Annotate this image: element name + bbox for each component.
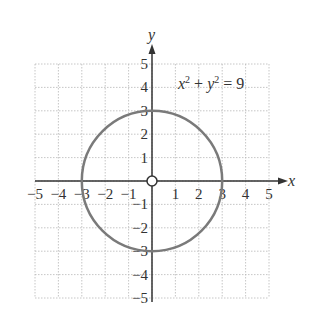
x-axis-arrow-icon [278,178,288,185]
x-tick-label: 4 [242,186,250,202]
circle-graph: −5−4−3−2−11234554321−1−2−3−4−5 x y x2 + … [0,0,319,331]
y-tick-label: −4 [132,267,148,283]
y-tick-label: −1 [132,196,148,212]
x-tick-label: 1 [172,186,180,202]
y-tick-label: −2 [132,220,148,236]
y-axis-arrow-icon [149,44,156,54]
y-tick-label: −5 [132,290,148,306]
y-tick-label: 4 [141,79,149,95]
x-tick-label: −4 [50,186,66,202]
origin-open-point [147,176,157,186]
axes [35,44,288,302]
y-tick-label: 2 [141,126,149,142]
equation-label: x2 + y2 = 9 [177,74,244,93]
y-axis-label: y [146,26,156,44]
x-tick-label: −5 [27,186,43,202]
x-axis-label: x [287,172,295,189]
x-tick-label: 2 [195,186,203,202]
x-tick-label: 5 [265,186,273,202]
y-tick-label: 5 [141,56,149,72]
y-tick-label: 1 [141,150,149,166]
x-tick-label: −2 [97,186,113,202]
